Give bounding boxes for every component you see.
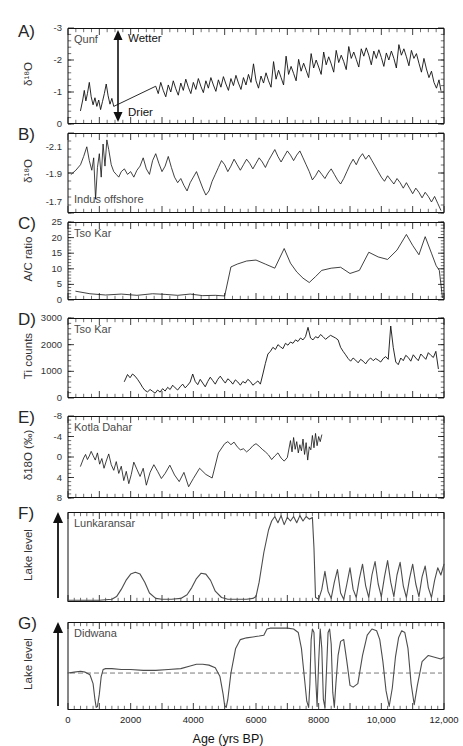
series-name-label: Qunf: [74, 33, 98, 45]
series-name-label: Didwana: [74, 627, 117, 639]
plot-frame: [68, 319, 444, 398]
arrow-head-up: [53, 512, 63, 523]
plot-frame: [68, 29, 444, 124]
annotation-wetter: Wetter: [128, 32, 162, 44]
data-trace: [124, 326, 438, 393]
x-axis-tick-label: 8000: [289, 714, 349, 725]
x-axis-tick-label: 6000: [226, 714, 286, 725]
data-trace: [76, 234, 443, 297]
panel-C: C)A/C ratio0510152025Tso Kar: [0, 222, 456, 300]
panel-G: G)Lake levelDidwana: [0, 622, 456, 710]
x-axis-title: Age (yrs BP): [0, 732, 456, 746]
x-axis-tick-label: 2000: [101, 714, 161, 725]
data-trace: [81, 45, 441, 111]
panel-plot-C: [0, 222, 456, 302]
panel-plot-B: [0, 133, 456, 215]
panel-plot-D: [0, 318, 456, 400]
panel-plot-E: [0, 416, 456, 500]
panel-F: F)Lake levelLunkaransar: [0, 512, 456, 602]
panel-B: B)δ¹⁸O-2.1-1.9-1.7Indus offshore: [0, 133, 456, 213]
panel-A: A)δ¹⁸O-3-2-10QunfWetterDrier: [0, 28, 456, 124]
series-name-label: Tso Kar: [74, 227, 111, 239]
panel-plot-A: [0, 28, 456, 126]
data-trace: [81, 433, 322, 486]
x-axis-tick-label: 0: [38, 714, 98, 725]
plot-frame: [68, 223, 444, 300]
series-name-label: Indus offshore: [74, 193, 144, 205]
panel-E: E)δ18O (‰)-8-4048Kotla Dahar: [0, 416, 456, 498]
x-axis-tick-label: 10,000: [351, 714, 411, 725]
panel-plot-F: [0, 512, 456, 604]
annotation-drier: Drier: [128, 106, 153, 118]
series-name-label: Tso Kar: [74, 323, 111, 335]
panel-D: D)Ti counts0100020003000Tso Kar: [0, 318, 456, 398]
panel-plot-G: [0, 622, 456, 712]
series-name-label: Lunkaransar: [74, 517, 135, 529]
x-axis-tick-label: 4000: [163, 714, 223, 725]
arrow-head-up: [53, 622, 63, 633]
x-axis-tick-label: 12,000: [414, 714, 463, 725]
data-trace: [68, 628, 444, 707]
series-name-label: Kotla Dahar: [74, 421, 132, 433]
